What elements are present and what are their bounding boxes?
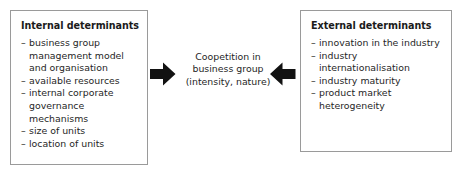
list-item-line: industry internationalisation xyxy=(319,50,443,75)
internal-determinants-heading: Internal determinants xyxy=(21,20,139,31)
centre-caption-line: (intensity, nature) xyxy=(178,76,278,88)
list-item-line: business group xyxy=(29,37,139,50)
list-item: – location of units xyxy=(21,138,139,151)
dash-marker: – xyxy=(311,37,316,50)
list-item: – available resources xyxy=(21,75,139,88)
dash-marker: – xyxy=(311,50,316,63)
list-item-line: and organisation xyxy=(29,62,139,75)
diagram-canvas: Internal determinants – business group m… xyxy=(0,0,465,177)
dash-marker: – xyxy=(311,87,316,100)
list-item: – internal corporate governance mechanis… xyxy=(21,87,139,125)
external-determinants-heading: External determinants xyxy=(311,20,443,31)
centre-caption-line: business group xyxy=(178,63,278,75)
list-item: – business group management model and or… xyxy=(21,37,139,75)
dash-marker: – xyxy=(21,138,26,151)
list-item-line: innovation in the industry xyxy=(319,37,443,50)
dash-marker: – xyxy=(21,125,26,138)
external-determinants-list: – innovation in the industry – industry … xyxy=(311,37,443,113)
dash-marker: – xyxy=(21,75,26,88)
list-item: – product market heterogeneity xyxy=(311,87,443,112)
dash-marker: – xyxy=(311,75,316,88)
list-item-line: governance mechanisms xyxy=(29,100,139,125)
internal-box-content: Internal determinants – business group m… xyxy=(11,11,147,156)
list-item: – innovation in the industry xyxy=(311,37,443,50)
list-item-line: management model xyxy=(29,50,139,63)
internal-determinants-list: – business group management model and or… xyxy=(21,37,139,150)
centre-caption-line: Coopetition in xyxy=(178,51,278,63)
list-item-line: location of units xyxy=(29,138,139,151)
list-item-line: size of units xyxy=(29,125,139,138)
external-determinants-box: External determinants – innovation in th… xyxy=(300,10,452,152)
list-item-line: product market xyxy=(319,87,443,100)
dash-marker: – xyxy=(21,87,26,100)
list-item-line: industry maturity xyxy=(319,75,443,88)
external-box-content: External determinants – innovation in th… xyxy=(301,11,451,119)
list-item-line: heterogeneity xyxy=(319,100,443,113)
list-item-line: internal corporate xyxy=(29,87,139,100)
arrow-pointing-left-icon xyxy=(270,62,296,90)
internal-determinants-box: Internal determinants – business group m… xyxy=(10,10,148,165)
list-item-line: available resources xyxy=(29,75,139,88)
list-item: – industry internationalisation xyxy=(311,50,443,75)
list-item: – industry maturity xyxy=(311,75,443,88)
centre-caption: Coopetition in business group (intensity… xyxy=(178,51,278,88)
list-item: – size of units xyxy=(21,125,139,138)
arrow-pointing-right-icon xyxy=(150,62,176,90)
dash-marker: – xyxy=(21,37,26,50)
